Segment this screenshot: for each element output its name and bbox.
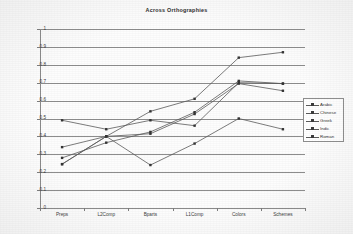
legend-item-label: Indic (319, 127, 329, 131)
data-point-marker (149, 131, 151, 133)
page-title: Across Orthographies (0, 7, 353, 13)
x-tick-label: L1Comp (186, 212, 204, 217)
y-tick-mark (37, 29, 40, 30)
y-tick-mark (37, 47, 40, 48)
legend-item-label: Arabic (319, 103, 332, 107)
legend-marker-icon (306, 118, 319, 125)
y-tick-mark (37, 101, 40, 102)
y-tick-mark (37, 190, 40, 191)
y-tick-mark (37, 172, 40, 173)
series-line (62, 119, 283, 166)
x-tick-label: Schemes (273, 212, 293, 217)
data-point-marker (61, 163, 63, 165)
data-series-layer (0, 0, 353, 234)
data-point-marker (282, 90, 284, 92)
x-tick-mark (128, 208, 129, 211)
data-point-marker (282, 51, 284, 53)
gridline (40, 47, 305, 48)
data-point-marker (61, 157, 63, 159)
y-tick-label: 0.9 (12, 45, 46, 50)
x-tick-label: Preps (56, 212, 68, 217)
x-tick-label: Colors (232, 212, 246, 217)
gridline (40, 172, 305, 173)
y-tick-label: 0.3 (12, 152, 46, 157)
gridline (40, 29, 305, 30)
legend-marker-icon (306, 102, 319, 109)
gridline (40, 154, 305, 155)
x-tick-mark (40, 208, 41, 211)
gridline (40, 190, 305, 191)
data-point-marker (105, 141, 107, 143)
y-tick-mark (37, 136, 40, 137)
series-greek (61, 82, 284, 165)
gridline (40, 83, 305, 84)
scan-vignette-overlay (0, 0, 353, 234)
y-tick-label: 0.8 (12, 63, 46, 68)
data-point-marker (61, 163, 63, 165)
gridline (40, 119, 305, 120)
gridline (40, 101, 305, 102)
data-point-marker (149, 133, 151, 135)
data-point-marker (149, 110, 151, 112)
series-line (62, 83, 283, 130)
series-arabic (61, 82, 284, 131)
data-point-marker (149, 164, 151, 166)
legend-item[interactable]: Arabic (305, 101, 342, 109)
y-tick-label: 0.7 (12, 80, 46, 85)
x-tick-mark (305, 208, 306, 211)
legend-item[interactable]: Roman (305, 133, 342, 141)
x-tick-label: L2Comp (97, 212, 115, 217)
data-point-marker (193, 142, 195, 144)
legend-marker-icon (306, 110, 319, 117)
data-point-marker (61, 146, 63, 148)
y-tick-mark (37, 83, 40, 84)
legend: Arabic Chinese Greek Indic Roman (303, 98, 344, 142)
y-tick-label: 0.4 (12, 134, 46, 139)
legend-item-label: Roman (319, 135, 334, 139)
x-tick-mark (84, 208, 85, 211)
gridline (40, 136, 305, 137)
y-tick-mark (37, 65, 40, 66)
data-point-marker (193, 124, 195, 126)
y-tick-label: 0.6 (12, 98, 46, 103)
x-tick-mark (261, 208, 262, 211)
data-point-marker (193, 111, 195, 113)
x-tick-mark (217, 208, 218, 211)
y-tick-mark (37, 154, 40, 155)
legend-item[interactable]: Indic (305, 125, 342, 133)
legend-marker-icon (306, 134, 319, 141)
x-tick-mark (173, 208, 174, 211)
legend-item[interactable]: Chinese (305, 109, 342, 117)
data-point-marker (282, 128, 284, 130)
y-tick-label: 1 (12, 27, 46, 32)
x-tick-label: Bparts (144, 212, 158, 217)
y-tick-label: 0.2 (12, 170, 46, 175)
data-point-marker (105, 128, 107, 130)
y-tick-label: 0.1 (12, 188, 46, 193)
y-tick-mark (37, 119, 40, 120)
data-point-marker (238, 56, 240, 58)
series-line (62, 84, 283, 165)
legend-item-label: Greek (319, 119, 332, 123)
scan-grain-overlay (0, 0, 353, 234)
legend-marker-icon (306, 126, 319, 133)
legend-item[interactable]: Greek (305, 117, 342, 125)
legend-item-label: Chinese (319, 111, 336, 115)
series-roman (61, 117, 284, 166)
chart-page: Across Orthographies Proportions 10.90.8… (0, 0, 353, 234)
gridline (40, 65, 305, 66)
y-tick-label: 0.5 (12, 116, 46, 121)
data-point-marker (193, 113, 195, 115)
